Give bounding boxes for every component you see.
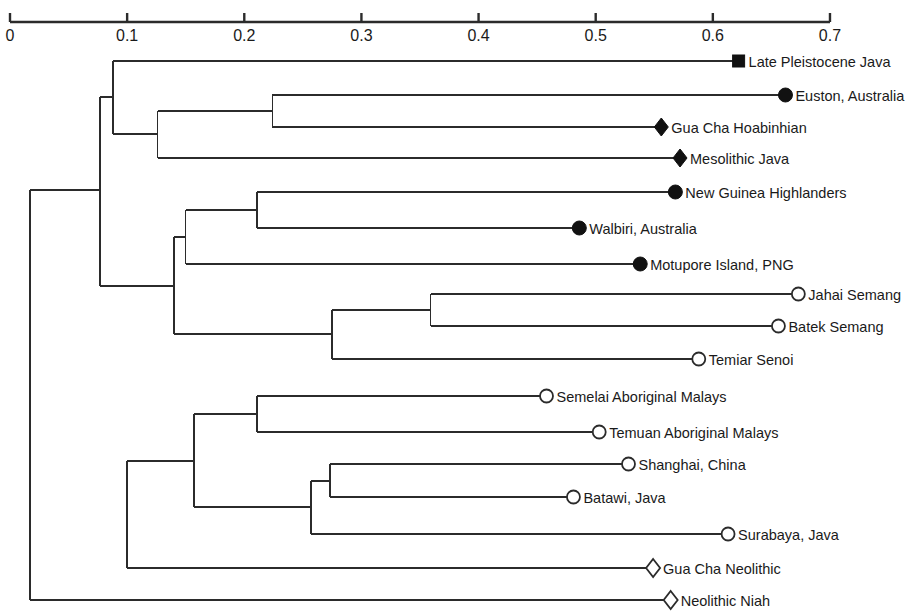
leaf-label: Motupore Island, PNG [650, 257, 793, 273]
marker-filled-circle [572, 221, 586, 235]
leaf-label: Semelai Aboriginal Malays [557, 389, 727, 405]
leaf-node: Walbiri, Australia [572, 221, 697, 237]
marker-filled-diamond [654, 118, 668, 136]
leaf-node: Euston, Australia [778, 88, 905, 104]
marker-open-circle [792, 288, 805, 301]
marker-open-circle [692, 353, 705, 366]
leaf-node: Batek Semang [772, 319, 884, 335]
marker-open-circle [593, 426, 606, 439]
leaf-label: Mesolithic Java [690, 151, 790, 167]
marker-open-circle [540, 390, 553, 403]
dendrogram-figure: 00.10.20.30.40.50.60.7 Late Pleistocene … [0, 0, 924, 611]
leaf-label: Temuan Aboriginal Malays [609, 425, 778, 441]
marker-open-circle [772, 320, 785, 333]
leaf-label: Neolithic Niah [681, 593, 770, 609]
marker-filled-circle [668, 185, 682, 199]
marker-filled-diamond [673, 149, 687, 167]
marker-open-diamond [664, 591, 678, 609]
dendrogram-canvas: 00.10.20.30.40.50.60.7 Late Pleistocene … [0, 0, 924, 611]
axis-tick-label: 0 [6, 27, 15, 44]
marker-open-circle [622, 458, 635, 471]
leaf-node: Late Pleistocene Java [733, 54, 892, 70]
marker-open-circle [722, 528, 735, 541]
leaf-label: Batawi, Java [583, 490, 666, 506]
marker-filled-square [733, 55, 745, 67]
axis-tick-label: 0.1 [116, 27, 138, 44]
marker-filled-circle [778, 88, 792, 102]
leaf-node: Gua Cha Neolithic [646, 559, 781, 577]
axis-tick-label: 0.5 [585, 27, 607, 44]
leaf-node: Temuan Aboriginal Malays [593, 425, 779, 441]
leaf-label: Batek Semang [788, 319, 883, 335]
leaf-node: New Guinea Highlanders [668, 185, 846, 201]
tree-leaves: Late Pleistocene JavaEuston, AustraliaGu… [540, 54, 905, 610]
marker-open-diamond [646, 559, 660, 577]
axis-tick-label: 0.2 [233, 27, 255, 44]
axis-tick-label: 0.4 [467, 27, 489, 44]
axis: 00.10.20.30.40.50.60.7 [6, 13, 842, 44]
leaf-node: Motupore Island, PNG [633, 257, 793, 273]
leaf-node: Mesolithic Java [673, 149, 790, 167]
leaf-node: Neolithic Niah [664, 591, 770, 609]
leaf-label: Jahai Semang [808, 287, 901, 303]
leaf-node: Batawi, Java [567, 490, 667, 506]
leaf-label: Surabaya, Java [738, 527, 840, 543]
marker-filled-circle [633, 257, 647, 271]
axis-tick-label: 0.3 [350, 27, 372, 44]
leaf-node: Temiar Senoi [692, 352, 793, 368]
leaf-label: Shanghai, China [638, 457, 746, 473]
leaf-node: Jahai Semang [792, 287, 901, 303]
leaf-label: Gua Cha Hoabinhian [671, 120, 806, 136]
leaf-node: Gua Cha Hoabinhian [654, 118, 806, 136]
leaf-label: Euston, Australia [795, 88, 905, 104]
axis-tick-label: 0.7 [819, 27, 841, 44]
leaf-label: Temiar Senoi [709, 352, 794, 368]
marker-open-circle [567, 491, 580, 504]
leaf-node: Surabaya, Java [722, 527, 840, 543]
axis-tick-label: 0.6 [702, 27, 724, 44]
leaf-node: Shanghai, China [622, 457, 747, 473]
leaf-label: New Guinea Highlanders [685, 185, 846, 201]
tree-branches [30, 61, 798, 600]
leaf-label: Late Pleistocene Java [749, 54, 892, 70]
leaf-label: Walbiri, Australia [589, 221, 697, 237]
leaf-node: Semelai Aboriginal Malays [540, 389, 727, 405]
leaf-label: Gua Cha Neolithic [663, 561, 781, 577]
